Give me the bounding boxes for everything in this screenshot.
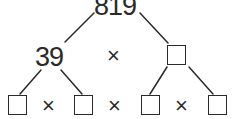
root-number: 819 bbox=[94, 0, 136, 20]
times-symbol-level2-1: × bbox=[42, 95, 55, 117]
answer-box-level2-3[interactable] bbox=[141, 95, 160, 115]
answer-box-level1-right[interactable] bbox=[167, 45, 186, 65]
branch-box-left bbox=[150, 67, 167, 94]
branch-39-left bbox=[20, 70, 41, 94]
factor-39: 39 bbox=[35, 44, 63, 71]
branch-root-left bbox=[65, 13, 94, 42]
factor-tree-diagram: 819 39 × × × × bbox=[0, 0, 238, 119]
times-symbol-level2-3: × bbox=[175, 95, 188, 117]
branch-root-right bbox=[140, 13, 168, 43]
answer-box-level2-2[interactable] bbox=[74, 95, 93, 115]
times-symbol-level2-2: × bbox=[108, 95, 121, 117]
answer-box-level2-1[interactable] bbox=[8, 95, 27, 115]
branch-box-right bbox=[189, 67, 213, 94]
times-symbol-level1: × bbox=[107, 45, 120, 67]
branch-39-right bbox=[61, 70, 82, 94]
answer-box-level2-4[interactable] bbox=[208, 95, 227, 115]
